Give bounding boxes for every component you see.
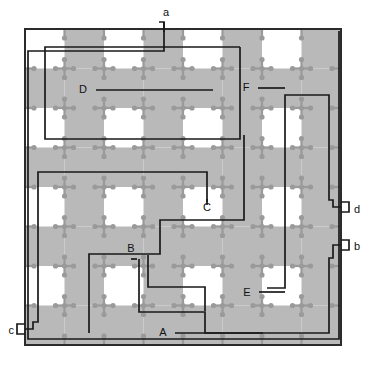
grid-cell-shade — [65, 187, 105, 227]
grid-cell-shade — [25, 227, 65, 267]
grid-cell-shade — [144, 148, 184, 188]
grid-cell-shade — [104, 69, 144, 109]
grid-cell-shade — [183, 148, 223, 188]
grid-cell-shade — [302, 108, 342, 148]
grid-cell-shade — [262, 148, 302, 188]
terminal-label-d: d — [354, 203, 360, 215]
grid-cell-shade — [144, 69, 184, 109]
grid-cell-shade — [144, 266, 184, 306]
net-label-E: E — [243, 286, 250, 298]
grid-cell-shade — [104, 148, 144, 188]
grid-cell-shade — [65, 148, 105, 188]
grid-cell-shade — [262, 227, 302, 267]
grid-cell-shade — [223, 266, 263, 306]
grid-cell-shade — [144, 227, 184, 267]
layout-diagram: adbc ABCDEF — [0, 0, 376, 369]
net-label-B: B — [127, 242, 134, 254]
net-label-C: C — [203, 201, 211, 213]
grid-cell-shade — [104, 227, 144, 267]
grid-cell-shade — [302, 266, 342, 306]
grid-cell-shade — [65, 108, 105, 148]
grid-cell-shade — [65, 29, 105, 69]
net-label-F: F — [243, 81, 250, 93]
grid-cell-shade — [302, 69, 342, 109]
grid-cell-shade — [223, 108, 263, 148]
grid-cell-shade — [223, 227, 263, 267]
net-label-D: D — [79, 83, 87, 95]
terminal-label-c: c — [9, 324, 15, 336]
net-label-A: A — [159, 326, 167, 338]
terminal-label-b: b — [354, 240, 360, 252]
grid-cell-shade — [25, 148, 65, 188]
grid-cell-shade — [65, 266, 105, 306]
grid-cell-shade — [183, 227, 223, 267]
grid-cell-shade — [302, 148, 342, 188]
terminal-label-a: a — [163, 6, 170, 18]
grid-cell-shade — [183, 69, 223, 109]
diagram-canvas: adbc ABCDEF — [0, 0, 376, 369]
grid-cell-shade — [223, 148, 263, 188]
grid-cell-shade — [302, 29, 342, 69]
grid-cell-shade — [223, 29, 263, 69]
grid-cell-shade — [144, 108, 184, 148]
grid-cell-shade — [302, 227, 342, 267]
grid-cell-shade — [65, 227, 105, 267]
